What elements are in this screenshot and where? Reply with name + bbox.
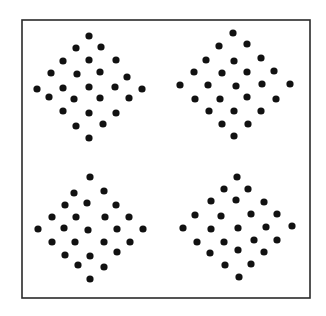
lattice-dot: [86, 173, 93, 180]
lattice-dot: [234, 224, 241, 231]
lattice-dot: [243, 40, 250, 47]
lattice-dot: [206, 249, 213, 256]
lattice-dot: [243, 68, 250, 75]
lattice-dot: [59, 107, 66, 114]
lattice-dot: [247, 260, 254, 267]
lattice-dot: [244, 185, 251, 192]
lattice-dot: [113, 248, 120, 255]
lattice-dot: [112, 109, 119, 116]
lattice-dot: [123, 73, 130, 80]
lattice-dot: [233, 173, 240, 180]
lattice-dot: [262, 223, 269, 230]
lattice-dot: [125, 94, 132, 101]
lattice-dot: [243, 93, 250, 100]
lattice-dot: [272, 95, 279, 102]
lattice-dot: [86, 252, 93, 259]
lattice-dot: [229, 29, 236, 36]
lattice-dot: [234, 246, 241, 253]
lattice-dot: [179, 224, 186, 231]
lattice-dot: [73, 70, 80, 77]
dot-lattice-figure: [0, 0, 326, 316]
lattice-dot: [71, 238, 78, 245]
lattice-dot: [235, 273, 242, 280]
lattice-dot: [100, 187, 107, 194]
lattice-dot: [190, 68, 197, 75]
lattice-dot: [220, 185, 227, 192]
lattice-dot: [176, 81, 183, 88]
lattice-dot: [220, 238, 227, 245]
lattice-dot: [113, 225, 120, 232]
figure-background: [0, 0, 326, 316]
lattice-dot: [59, 84, 66, 91]
lattice-dot: [100, 263, 107, 270]
lattice-dot: [111, 83, 118, 90]
lattice-dot: [85, 109, 92, 116]
lattice-dot: [101, 213, 108, 220]
lattice-dot: [270, 67, 277, 74]
lattice-dot: [205, 107, 212, 114]
lattice-dot: [112, 201, 119, 208]
lattice-dot: [230, 132, 237, 139]
lattice-dot: [250, 236, 257, 243]
lattice-dot: [96, 68, 103, 75]
lattice-dot: [61, 201, 68, 208]
lattice-dot: [230, 57, 237, 64]
lattice-dot: [47, 69, 54, 76]
lattice-dot: [221, 261, 228, 268]
lattice-dot: [84, 226, 91, 233]
lattice-dot: [99, 120, 106, 127]
lattice-dot: [125, 213, 132, 220]
lattice-dot: [97, 43, 104, 50]
lattice-dot: [191, 211, 198, 218]
lattice-dot: [288, 222, 295, 229]
lattice-dot: [85, 134, 92, 141]
lattice-dot: [83, 199, 90, 206]
lattice-dot: [202, 56, 209, 63]
lattice-dot: [232, 82, 239, 89]
lattice-dot: [100, 238, 107, 245]
lattice-dot: [204, 81, 211, 88]
lattice-dot: [74, 261, 81, 268]
lattice-dot: [230, 107, 237, 114]
lattice-dot: [85, 83, 92, 90]
lattice-dot: [45, 93, 52, 100]
lattice-dot: [244, 120, 251, 127]
lattice-dot: [59, 57, 66, 64]
lattice-dot: [48, 213, 55, 220]
lattice-dot: [34, 225, 41, 232]
lattice-dot: [85, 32, 92, 39]
lattice-dot: [112, 56, 119, 63]
lattice-dot: [207, 197, 214, 204]
lattice-dot: [260, 248, 267, 255]
lattice-dot: [86, 275, 93, 282]
lattice-dot: [72, 213, 79, 220]
lattice-dot: [70, 95, 77, 102]
lattice-dot: [48, 238, 55, 245]
lattice-dot: [72, 122, 79, 129]
lattice-dot: [61, 251, 68, 258]
lattice-dot: [232, 196, 239, 203]
lattice-dot: [60, 224, 67, 231]
lattice-dot: [217, 212, 224, 219]
lattice-dot: [257, 107, 264, 114]
lattice-dot: [216, 95, 223, 102]
lattice-dot: [215, 42, 222, 49]
lattice-dot: [218, 69, 225, 76]
lattice-dot: [96, 94, 103, 101]
lattice-dot: [72, 44, 79, 51]
lattice-dot: [247, 210, 254, 217]
lattice-dot: [138, 85, 145, 92]
lattice-dot: [33, 85, 40, 92]
lattice-dot: [260, 198, 267, 205]
lattice-dot: [191, 95, 198, 102]
lattice-dot: [257, 54, 264, 61]
lattice-dot: [207, 225, 214, 232]
lattice-dot: [218, 120, 225, 127]
lattice-dot: [273, 210, 280, 217]
lattice-dot: [273, 236, 280, 243]
lattice-dot: [286, 80, 293, 87]
lattice-dot: [258, 80, 265, 87]
lattice-dot: [126, 238, 133, 245]
lattice-dot: [85, 56, 92, 63]
lattice-dot: [70, 189, 77, 196]
